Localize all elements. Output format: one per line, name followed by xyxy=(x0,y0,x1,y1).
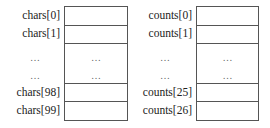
chars-label-1: chars[1] xyxy=(22,26,60,40)
chars-cell-1 xyxy=(65,25,127,44)
chars-cell-ellipsis-1: … xyxy=(65,53,127,63)
counts-cell-25 xyxy=(197,83,258,102)
chars-cell-ellipsis: … … xyxy=(65,44,127,84)
counts-label-0: counts[0] xyxy=(149,8,192,22)
chars-cell-0 xyxy=(65,7,127,26)
chars-cell-99 xyxy=(65,102,127,121)
chars-label-0: chars[0] xyxy=(22,8,60,22)
chars-label-ellipsis-2: … xyxy=(30,71,40,81)
chars-label-99: chars[99] xyxy=(17,103,60,117)
counts-array-box: … … xyxy=(196,6,259,121)
counts-cell-ellipsis: … … xyxy=(197,44,258,84)
counts-label-1: counts[1] xyxy=(149,26,192,40)
counts-cell-0 xyxy=(197,7,258,26)
counts-label-26: counts[26] xyxy=(143,103,192,117)
chars-array-box: … … xyxy=(64,6,128,121)
chars-label-ellipsis-1: … xyxy=(30,53,40,63)
counts-label-ellipsis-1: … xyxy=(160,53,170,63)
chars-cell-ellipsis-2: … xyxy=(65,71,127,81)
chars-cell-98 xyxy=(65,83,127,102)
counts-cell-26 xyxy=(197,102,258,121)
counts-cell-ellipsis-2: … xyxy=(197,71,258,81)
counts-cell-1 xyxy=(197,25,258,44)
counts-cell-ellipsis-1: … xyxy=(197,53,258,63)
chars-label-98: chars[98] xyxy=(17,85,60,99)
counts-label-25: counts[25] xyxy=(143,85,192,99)
counts-label-ellipsis-2: … xyxy=(160,71,170,81)
